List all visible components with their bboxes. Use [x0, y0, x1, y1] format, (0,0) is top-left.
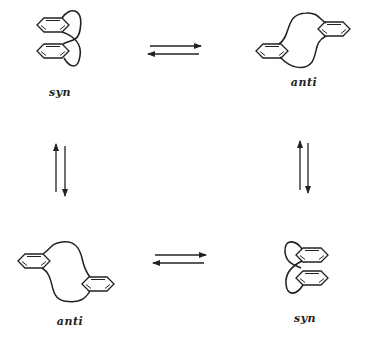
- structure-syn-top-left: [37, 11, 81, 66]
- benzene-ring-lower: [37, 44, 69, 58]
- bridge-top: [43, 242, 90, 277]
- benzene-ring-lower: [296, 271, 328, 285]
- diagram-canvas: [0, 0, 366, 338]
- bridge-upper: [285, 242, 302, 268]
- structure-syn-bottom-right: [285, 242, 328, 293]
- bridge-upper: [62, 11, 81, 44]
- equilibrium-arrows-top: [148, 46, 201, 54]
- label-anti-top-right: anti: [291, 76, 317, 89]
- benzene-ring-upper: [296, 248, 328, 262]
- benzene-ring-upper: [37, 18, 69, 32]
- structure-anti-top-right: [256, 13, 350, 68]
- benzene-ring-left: [256, 44, 288, 58]
- equilibrium-arrows-right: [300, 141, 308, 193]
- benzene-ring-right: [318, 22, 350, 36]
- label-syn-top-left: syn: [49, 86, 71, 99]
- bridge-lower: [286, 261, 303, 293]
- benzene-ring-left: [18, 254, 50, 268]
- equilibrium-arrows-bottom: [153, 255, 206, 263]
- label-anti-bottom-left: anti: [57, 315, 83, 328]
- structure-anti-bottom-left: [18, 242, 114, 302]
- benzene-ring-right: [82, 277, 114, 291]
- equilibrium-arrows-left: [56, 144, 65, 196]
- label-syn-bottom-right: syn: [294, 312, 316, 325]
